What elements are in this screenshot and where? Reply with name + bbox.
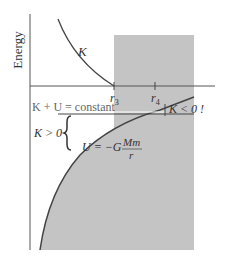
total-energy-label: K + U = constant xyxy=(32,100,116,114)
k-curve-label: K xyxy=(77,44,88,59)
y-axis-label: Energy xyxy=(10,31,25,69)
brace-icon xyxy=(64,116,71,150)
energy-diagram: Energy K r3 r4 K + U = constant K < 0 ! … xyxy=(0,0,225,263)
k-negative-label: K < 0 ! xyxy=(168,102,204,116)
potential-numerator: Mm xyxy=(122,136,140,148)
potential-label: U = −G xyxy=(82,140,122,154)
potential-denominator: r xyxy=(129,149,134,161)
k-positive-label: K > 0 xyxy=(33,126,62,140)
